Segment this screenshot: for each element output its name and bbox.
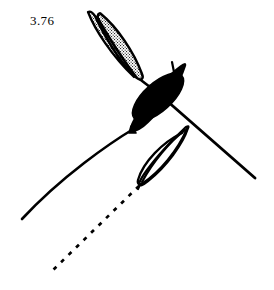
figure-panel: 3.76 <box>0 0 274 290</box>
figure-background <box>0 0 274 290</box>
figure-drawing <box>0 0 274 290</box>
figure-number-label: 3.76 <box>30 14 54 27</box>
